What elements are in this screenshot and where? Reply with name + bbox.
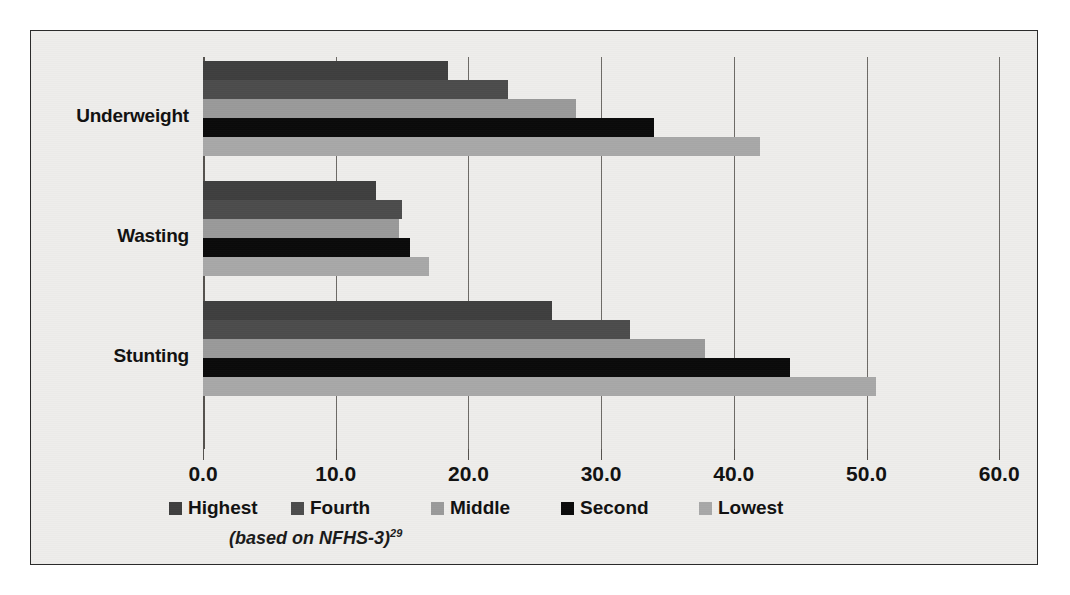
screenshot-root: UnderweightWastingStunting 0.010.020.030…: [0, 0, 1070, 595]
bar-underweight-second: [203, 118, 654, 137]
bar-row: [203, 118, 1039, 137]
legend-label: Lowest: [718, 497, 783, 519]
tick-mark-30.0: [601, 449, 602, 460]
bar-underweight-fourth: [203, 80, 508, 99]
bar-row: [203, 99, 1039, 118]
bar-wasting-lowest: [203, 257, 429, 276]
bar-underweight-middle: [203, 99, 576, 118]
legend-swatch-icon-fourth: [291, 502, 304, 515]
tick-mark-60.0: [999, 449, 1000, 460]
bar-wasting-second: [203, 238, 410, 257]
tick-mark-10.0: [336, 449, 337, 460]
legend-label: Fourth: [310, 497, 370, 519]
bar-row: [203, 257, 1039, 276]
bar-stunting-second: [203, 358, 790, 377]
category-label-underweight: Underweight: [76, 105, 189, 127]
legend-swatch-icon-highest: [169, 502, 182, 515]
tick-mark-50.0: [867, 449, 868, 460]
bar-row: [203, 339, 1039, 358]
bar-row: [203, 320, 1039, 339]
bar-row: [203, 61, 1039, 80]
bar-row: [203, 358, 1039, 377]
tick-label-10.0: 10.0: [315, 462, 356, 486]
legend-item-lowest[interactable]: Lowest: [699, 497, 783, 519]
tick-mark-0.0: [203, 449, 204, 460]
tick-label-60.0: 60.0: [979, 462, 1020, 486]
bar-group-underweight: Underweight: [203, 61, 1039, 156]
tick-mark-40.0: [734, 449, 735, 460]
legend-swatch-icon-second: [561, 502, 574, 515]
bar-row: [203, 377, 1039, 396]
bar-row: [203, 200, 1039, 219]
bar-stunting-middle: [203, 339, 705, 358]
bar-group-wasting: Wasting: [203, 181, 1039, 276]
bar-underweight-highest: [203, 61, 448, 80]
bar-wasting-highest: [203, 181, 376, 200]
bar-stunting-fourth: [203, 320, 630, 339]
category-label-wasting: Wasting: [117, 225, 189, 247]
bar-group-stunting: Stunting: [203, 301, 1039, 396]
legend-swatch-icon-lowest: [699, 502, 712, 515]
bar-row: [203, 181, 1039, 200]
tick-label-20.0: 20.0: [448, 462, 489, 486]
bar-row: [203, 301, 1039, 320]
bar-row: [203, 80, 1039, 99]
source-note-superscript: 29: [390, 527, 402, 539]
bar-row: [203, 238, 1039, 257]
tick-label-40.0: 40.0: [713, 462, 754, 486]
tick-label-30.0: 30.0: [581, 462, 622, 486]
legend-item-highest[interactable]: Highest: [169, 497, 258, 519]
bar-underweight-lowest: [203, 137, 760, 156]
legend-item-fourth[interactable]: Fourth: [291, 497, 370, 519]
chart-plot-area: UnderweightWastingStunting: [203, 49, 1039, 449]
legend-label: Middle: [450, 497, 510, 519]
bar-wasting-middle: [203, 219, 399, 238]
source-note: (based on NFHS-3)29: [229, 527, 402, 549]
legend-item-second[interactable]: Second: [561, 497, 649, 519]
bar-stunting-highest: [203, 301, 552, 320]
bar-row: [203, 137, 1039, 156]
tick-label-0.0: 0.0: [188, 462, 217, 486]
bar-row: [203, 219, 1039, 238]
legend-label: Second: [580, 497, 649, 519]
tick-mark-20.0: [468, 449, 469, 460]
legend-item-middle[interactable]: Middle: [431, 497, 510, 519]
category-label-stunting: Stunting: [114, 345, 189, 367]
legend-swatch-icon-middle: [431, 502, 444, 515]
legend-label: Highest: [188, 497, 258, 519]
bar-wasting-fourth: [203, 200, 402, 219]
bar-stunting-lowest: [203, 377, 876, 396]
figure-frame: UnderweightWastingStunting 0.010.020.030…: [30, 30, 1038, 565]
tick-label-50.0: 50.0: [846, 462, 887, 486]
